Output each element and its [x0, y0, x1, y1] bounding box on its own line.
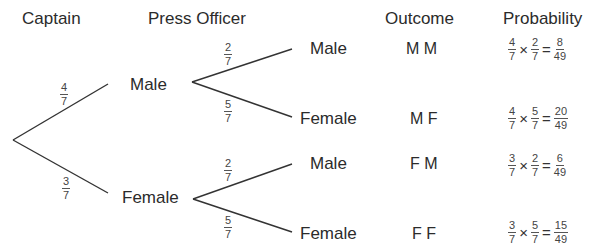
equals-sign: = [542, 224, 551, 241]
denominator: 7 [532, 50, 538, 62]
fraction-result: 849 [554, 37, 566, 62]
prob-captain-female: 3 7 [62, 176, 70, 201]
prob-captain-male: 4 7 [60, 82, 68, 107]
prob-female-male: 2 7 [224, 158, 232, 183]
numerator: 20 [554, 106, 568, 119]
fraction-b: 57 [531, 220, 539, 245]
denominator: 7 [509, 119, 515, 131]
denominator: 49 [554, 50, 566, 62]
numerator: 3 [508, 220, 516, 233]
outcome-1: M M [406, 41, 437, 57]
denominator: 7 [225, 55, 231, 67]
denominator: 49 [555, 233, 567, 245]
numerator: 3 [62, 176, 70, 189]
probability-4: 37 × 57 = 1549 [508, 220, 568, 245]
times-sign: × [519, 41, 528, 58]
numerator: 6 [556, 153, 564, 166]
fraction-b: 27 [531, 37, 539, 62]
numerator: 5 [531, 106, 539, 119]
numerator: 2 [224, 158, 232, 171]
fraction-b: 27 [531, 153, 539, 178]
denominator: 7 [509, 50, 515, 62]
times-sign: × [519, 224, 528, 241]
times-sign: × [519, 157, 528, 174]
branch-captain-female [13, 140, 108, 193]
denominator: 7 [225, 112, 231, 124]
prob-male-male: 2 7 [224, 42, 232, 67]
branch-male-male [192, 49, 292, 82]
equals-sign: = [542, 157, 551, 174]
equals-sign: = [542, 110, 551, 127]
fraction-b: 57 [531, 106, 539, 131]
numerator: 3 [508, 153, 516, 166]
outcome-2: M F [410, 111, 438, 127]
denominator: 7 [225, 228, 231, 240]
node-press-male-1: Male [310, 40, 347, 57]
numerator: 4 [60, 82, 68, 95]
numerator: 2 [531, 153, 539, 166]
header-press-officer: Press Officer [148, 10, 246, 27]
denominator: 49 [554, 166, 566, 178]
times-sign: × [519, 110, 528, 127]
fraction-result: 649 [554, 153, 566, 178]
branch-female-female [193, 199, 292, 232]
node-press-female-2: Female [300, 225, 357, 242]
denominator: 7 [509, 166, 515, 178]
node-press-female-1: Female [300, 110, 357, 127]
numerator: 5 [224, 215, 232, 228]
fraction-result: 1549 [554, 220, 568, 245]
header-probability: Probability [503, 10, 582, 27]
branch-female-male [193, 164, 292, 199]
outcome-4: F F [412, 226, 436, 242]
denominator: 49 [555, 119, 567, 131]
fraction-result: 2049 [554, 106, 568, 131]
equals-sign: = [542, 41, 551, 58]
numerator: 5 [531, 220, 539, 233]
header-captain: Captain [22, 10, 81, 27]
tree-lines [0, 0, 593, 251]
fraction-a: 37 [508, 153, 516, 178]
fraction-a: 47 [508, 37, 516, 62]
denominator: 7 [532, 166, 538, 178]
denominator: 7 [61, 95, 67, 107]
node-captain-female: Female [122, 189, 179, 206]
numerator: 4 [508, 37, 516, 50]
prob-male-female: 5 7 [224, 99, 232, 124]
denominator: 7 [63, 189, 69, 201]
node-press-male-2: Male [310, 155, 347, 172]
numerator: 5 [224, 99, 232, 112]
outcome-3: F M [410, 156, 438, 172]
prob-female-female: 5 7 [224, 215, 232, 240]
denominator: 7 [509, 233, 515, 245]
fraction-a: 47 [508, 106, 516, 131]
numerator: 2 [224, 42, 232, 55]
numerator: 4 [508, 106, 516, 119]
node-captain-male: Male [130, 76, 167, 93]
fraction-a: 37 [508, 220, 516, 245]
probability-2: 47 × 57 = 2049 [508, 106, 568, 131]
numerator: 15 [554, 220, 568, 233]
denominator: 7 [532, 233, 538, 245]
denominator: 7 [225, 171, 231, 183]
header-outcome: Outcome [385, 10, 454, 27]
probability-3: 37 × 27 = 649 [508, 153, 566, 178]
branch-male-female [192, 82, 292, 117]
probability-1: 47 × 27 = 849 [508, 37, 566, 62]
numerator: 2 [531, 37, 539, 50]
denominator: 7 [532, 119, 538, 131]
numerator: 8 [556, 37, 564, 50]
